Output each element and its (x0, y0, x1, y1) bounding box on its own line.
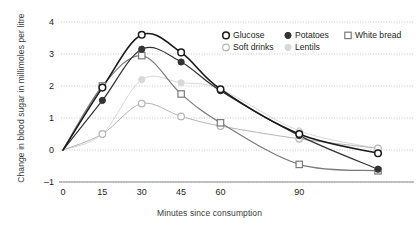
data-point-lentils (139, 77, 145, 83)
x-tick-label: 60 (215, 187, 225, 197)
data-point-soft-drinks (178, 113, 185, 120)
data-point-soft-drinks (138, 100, 145, 107)
data-point-glucose (296, 131, 303, 138)
y-tick-label: 4 (49, 17, 54, 27)
legend-marker-soft-drinks (223, 44, 230, 51)
data-point-potatoes (99, 97, 105, 103)
x-tick-label: 45 (176, 187, 186, 197)
data-point-glucose (99, 84, 106, 91)
data-point-potatoes (178, 59, 184, 65)
y-tick-label: 3 (49, 49, 54, 59)
legend-label-glucose: Glucose (233, 30, 265, 40)
legend-label-soft-drinks: Soft drinks (233, 42, 274, 52)
legend-marker-white-bread (345, 32, 351, 38)
data-point-potatoes (139, 46, 145, 52)
data-point-glucose (138, 32, 145, 39)
x-tick-label: 15 (97, 187, 107, 197)
legend-label-white-bread: White bread (355, 30, 402, 40)
legend-label-potatoes: Potatoes (295, 30, 329, 40)
y-tick-labels: –101234 (44, 17, 54, 187)
y-tick-label: 1 (49, 113, 54, 123)
series-line-potatoes (63, 47, 378, 169)
series-line-white-bread (63, 56, 378, 171)
legend-marker-potatoes (285, 32, 291, 38)
data-point-white-bread (217, 120, 223, 126)
y-tick-label: 2 (49, 81, 54, 91)
data-point-lentils (178, 80, 184, 86)
x-tick-label: 30 (137, 187, 147, 197)
data-point-glucose (375, 150, 382, 157)
chart-legend: GlucosePotatoesWhite breadSoft drinksLen… (223, 30, 402, 52)
data-point-white-bread (178, 91, 184, 97)
data-point-soft-drinks (99, 131, 106, 138)
plot-area: –101234 01530456090 GlucosePotatoesWhite… (0, 0, 419, 235)
y-tick-label: –1 (44, 177, 54, 187)
data-point-white-bread (139, 52, 145, 58)
legend-marker-glucose (223, 32, 230, 39)
data-point-potatoes (375, 166, 381, 172)
line-chart: Change in blood sugar in millimoles per … (0, 0, 419, 235)
x-tick-label: 90 (294, 187, 304, 197)
data-point-white-bread (296, 161, 302, 167)
x-tick-labels: 01530456090 (60, 187, 304, 197)
x-tick-label: 0 (60, 187, 65, 197)
data-point-glucose (178, 49, 185, 56)
legend-label-lentils: Lentils (295, 42, 320, 52)
data-point-glucose (217, 86, 224, 93)
y-tick-label: 0 (49, 145, 54, 155)
legend-marker-lentils (285, 44, 291, 50)
